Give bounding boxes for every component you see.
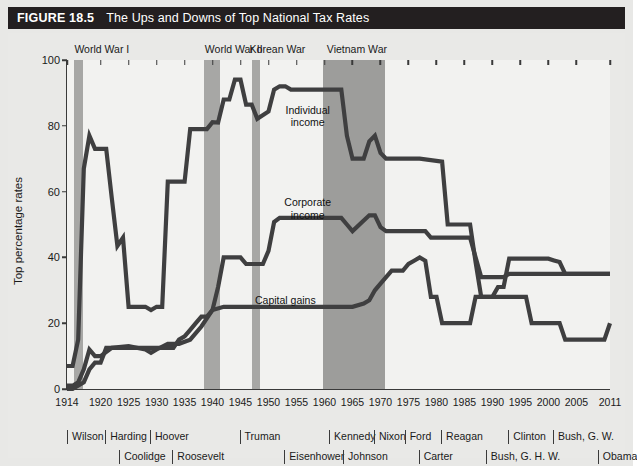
series-label-line: Individual bbox=[286, 103, 330, 116]
series-line bbox=[67, 80, 610, 366]
president-annotations: WilsonHardingCoolidgeHooverRooseveltTrum… bbox=[66, 416, 609, 466]
president-label: Ford bbox=[405, 430, 432, 444]
president-label: Nixon bbox=[374, 430, 406, 444]
series-label-line: Corporate bbox=[284, 196, 331, 209]
series-label-line: Capital gains bbox=[255, 294, 316, 307]
x-tick-label: 2005 bbox=[565, 389, 588, 408]
y-axis-label: Top percentage rates bbox=[12, 177, 24, 285]
president-label: Hoover bbox=[150, 430, 189, 444]
x-tick-label: 1980 bbox=[425, 389, 448, 408]
series-line bbox=[67, 257, 610, 389]
x-tick-label: 1920 bbox=[89, 389, 112, 408]
x-tick-label: 1990 bbox=[481, 389, 504, 408]
x-tick-label: 1985 bbox=[453, 389, 476, 408]
x-tick-label: 1925 bbox=[117, 389, 140, 408]
president-label: Eisenhower bbox=[284, 450, 344, 464]
president-label: Reagan bbox=[441, 430, 483, 444]
president-label: Roosevelt bbox=[172, 450, 224, 464]
president-label: Bush, G. H. W. bbox=[486, 450, 560, 464]
president-label: Kennedy bbox=[329, 430, 375, 444]
war-label: Vietnam War bbox=[327, 43, 387, 55]
x-tick-label: 1940 bbox=[201, 389, 224, 408]
x-tick-label: 1960 bbox=[313, 389, 336, 408]
president-label: Wilson bbox=[67, 430, 104, 444]
x-tick-label: 1945 bbox=[229, 389, 252, 408]
president-label: Coolidge bbox=[119, 450, 165, 464]
figure-title-bar: FIGURE 18.5 The Ups and Downs of Top Nat… bbox=[8, 7, 625, 29]
figure-title: The Ups and Downs of Top National Tax Ra… bbox=[106, 11, 369, 25]
x-tick-label: 1955 bbox=[285, 389, 308, 408]
president-label: Bush, G. W. bbox=[553, 430, 614, 444]
x-tick-label: 1930 bbox=[145, 389, 168, 408]
x-tick-label: 2000 bbox=[537, 389, 560, 408]
president-label: Obama bbox=[598, 450, 637, 464]
x-tick-label: 1914 bbox=[55, 389, 78, 408]
president-label: Truman bbox=[240, 430, 281, 444]
x-tick-label: 1950 bbox=[257, 389, 280, 408]
series-label-line: income bbox=[286, 116, 330, 129]
series-label-line: income bbox=[284, 208, 331, 221]
series-label: Capital gains bbox=[255, 294, 316, 307]
x-tick-label: 1935 bbox=[173, 389, 196, 408]
president-label: Harding bbox=[105, 430, 147, 444]
x-tick-label: 1970 bbox=[369, 389, 392, 408]
president-label: Clinton bbox=[508, 430, 546, 444]
x-tick-label: 1975 bbox=[397, 389, 420, 408]
x-tick-label: 2011 bbox=[599, 389, 622, 408]
president-label: Carter bbox=[419, 450, 453, 464]
war-label: World War I bbox=[74, 43, 129, 55]
chart-area: Top percentage rates 020406080100 191419… bbox=[8, 33, 625, 458]
figure-number: FIGURE 18.5 bbox=[17, 11, 94, 25]
war-label: Korean War bbox=[250, 43, 306, 55]
series-label: Individualincome bbox=[286, 103, 330, 128]
x-tick-label: 1965 bbox=[341, 389, 364, 408]
president-label: Johnson bbox=[343, 450, 388, 464]
x-tick-label: 1995 bbox=[509, 389, 532, 408]
plot-region: 020406080100 191419201925193019351940194… bbox=[66, 60, 610, 390]
data-lines bbox=[67, 60, 610, 389]
series-label: Corporateincome bbox=[284, 196, 331, 221]
